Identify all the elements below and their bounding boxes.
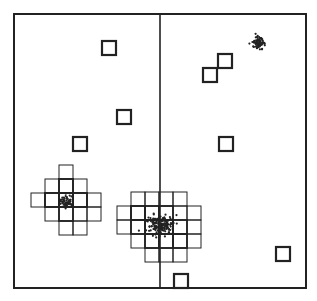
data-point bbox=[169, 216, 171, 218]
data-point bbox=[65, 193, 67, 195]
data-point bbox=[252, 45, 254, 47]
data-point bbox=[148, 230, 150, 232]
data-point bbox=[255, 36, 257, 38]
data-point bbox=[147, 220, 149, 222]
data-point bbox=[255, 41, 257, 43]
data-point bbox=[172, 228, 174, 230]
data-point bbox=[63, 204, 65, 206]
data-point bbox=[173, 222, 175, 224]
data-point bbox=[169, 229, 171, 231]
data-point bbox=[163, 216, 165, 218]
data-point bbox=[171, 233, 173, 235]
data-point bbox=[58, 205, 60, 207]
data-point bbox=[60, 203, 62, 205]
data-point bbox=[154, 224, 156, 226]
data-point bbox=[161, 221, 163, 223]
data-point bbox=[61, 206, 63, 208]
data-point bbox=[256, 47, 258, 49]
data-point bbox=[163, 227, 165, 229]
data-point bbox=[154, 234, 156, 236]
data-point bbox=[170, 222, 172, 224]
data-point bbox=[260, 37, 262, 39]
data-point bbox=[149, 217, 151, 219]
data-point bbox=[66, 196, 68, 198]
data-point bbox=[154, 228, 156, 230]
data-point bbox=[259, 45, 261, 47]
data-point bbox=[165, 227, 167, 229]
data-point bbox=[162, 230, 164, 232]
data-point bbox=[147, 217, 149, 219]
data-point bbox=[69, 199, 71, 201]
data-point bbox=[168, 231, 170, 233]
data-point bbox=[72, 206, 74, 208]
data-point bbox=[153, 213, 155, 215]
data-point bbox=[59, 200, 61, 202]
data-point bbox=[151, 225, 153, 227]
data-point bbox=[257, 35, 259, 37]
data-point bbox=[164, 214, 166, 216]
data-point bbox=[145, 229, 147, 231]
data-point bbox=[138, 230, 140, 232]
data-point bbox=[152, 235, 154, 237]
data-point bbox=[65, 207, 67, 209]
data-point bbox=[63, 201, 65, 203]
data-point bbox=[263, 42, 265, 44]
data-point bbox=[68, 206, 70, 208]
data-point bbox=[259, 48, 261, 50]
data-point bbox=[72, 199, 74, 201]
data-point bbox=[175, 214, 177, 216]
data-point bbox=[153, 222, 155, 224]
data-point bbox=[248, 43, 250, 45]
data-point bbox=[155, 218, 157, 220]
data-point bbox=[258, 41, 260, 43]
data-point bbox=[60, 198, 62, 200]
data-point bbox=[261, 48, 263, 50]
data-point bbox=[148, 226, 150, 228]
data-point bbox=[69, 202, 71, 204]
data-point bbox=[69, 195, 71, 197]
data-point bbox=[176, 223, 178, 225]
clustering-diagram bbox=[0, 0, 317, 301]
data-point bbox=[162, 224, 164, 226]
data-point bbox=[64, 197, 66, 199]
data-point bbox=[156, 231, 158, 233]
data-point bbox=[264, 44, 266, 46]
data-point bbox=[255, 33, 257, 35]
data-point bbox=[164, 235, 166, 237]
data-point bbox=[155, 236, 157, 238]
data-point bbox=[253, 41, 255, 43]
data-point bbox=[166, 222, 168, 224]
data-point bbox=[256, 44, 258, 46]
